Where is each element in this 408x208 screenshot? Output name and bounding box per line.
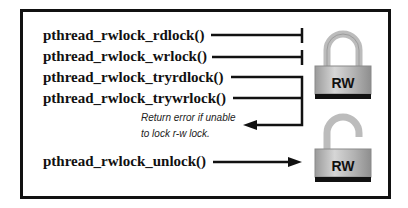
tryrdlock-return-line — [231, 77, 302, 125]
unlocked-rw-lock-icon: RW — [313, 113, 373, 185]
svg-text:RW: RW — [331, 75, 355, 91]
svg-text:RW: RW — [331, 158, 355, 174]
unlock-arrowhead — [288, 157, 302, 167]
return-error-arrowhead — [243, 120, 257, 130]
locked-rw-lock-icon: RW — [313, 30, 373, 102]
